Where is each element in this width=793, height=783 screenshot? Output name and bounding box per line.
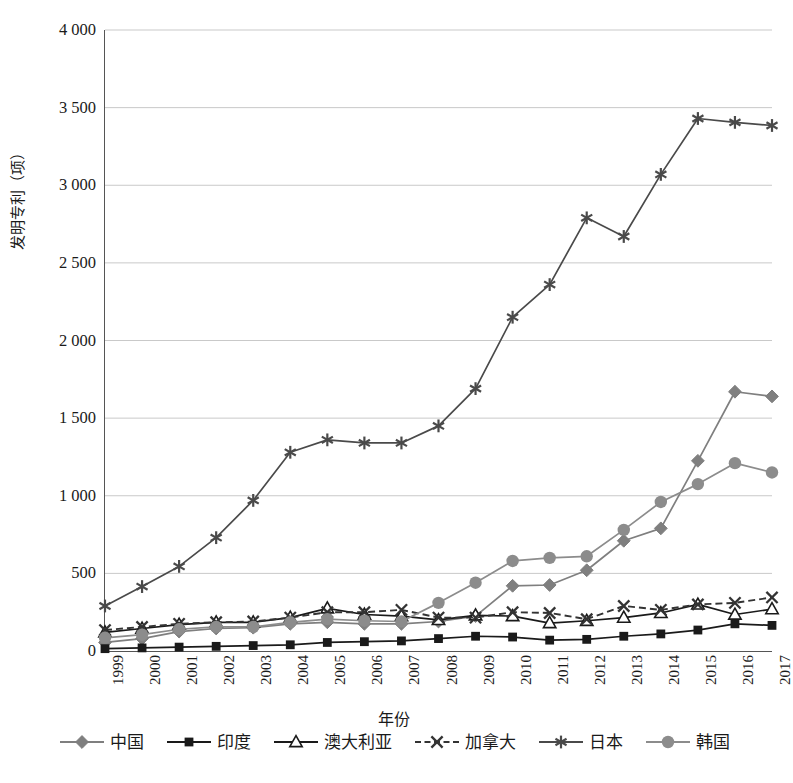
x-tick-label: 2011 (556, 655, 571, 684)
data-point-circle-marker (432, 597, 444, 609)
x-tick-label: 2010 (519, 655, 534, 685)
data-point-circle-marker (618, 524, 630, 536)
data-point-circle-marker (766, 466, 778, 478)
x-tick-label: 2005 (333, 655, 348, 685)
x-tick-label: 1999 (111, 655, 126, 685)
data-point-asterisk-marker (618, 230, 629, 243)
data-point-square-marker (619, 632, 628, 641)
series-4 (99, 112, 777, 612)
y-tick-label: 4 000 (22, 22, 96, 39)
x-tick-label: 2014 (667, 655, 682, 685)
x-tick-label: 2001 (185, 655, 200, 685)
y-tick-label: 500 (22, 565, 96, 582)
x-tick-label: 2016 (741, 655, 756, 685)
data-point-triangle-open-marker (289, 736, 301, 747)
legend: 中国印度澳大利亚加拿大日本韩国 (0, 733, 788, 751)
data-point-circle-marker (395, 615, 407, 627)
data-point-square-marker (731, 619, 740, 628)
data-point-circle-marker (247, 621, 259, 633)
data-point-circle-marker (173, 623, 185, 635)
data-point-square-marker (360, 637, 369, 646)
y-tick-label: 2 000 (22, 332, 96, 349)
data-point-circle-marker (136, 628, 148, 640)
legend-key-square-icon (166, 733, 212, 751)
data-point-square-marker (249, 641, 258, 650)
data-point-diamond-marker (654, 522, 667, 535)
data-point-square-marker (101, 644, 110, 653)
data-point-square-marker (138, 643, 147, 652)
legend-item-澳大利亚[interactable]: 澳大利亚 (273, 733, 392, 751)
data-point-circle-marker (661, 736, 673, 748)
data-point-square-marker (508, 633, 517, 642)
legend-item-韩国[interactable]: 韩国 (645, 733, 730, 751)
legend-label: 印度 (217, 734, 251, 751)
x-tick-label: 2006 (370, 655, 385, 685)
data-point-square-marker (323, 638, 332, 647)
x-tick-label: 2004 (296, 655, 311, 685)
y-axis-tick-labels: 05001 0001 5002 0002 5003 0003 5004 000 (16, 30, 96, 651)
data-point-circle-marker (543, 552, 555, 564)
legend-item-加拿大[interactable]: 加拿大 (414, 733, 516, 751)
data-point-asterisk-marker (99, 600, 110, 613)
data-point-circle-marker (358, 615, 370, 627)
data-point-square-marker (286, 640, 295, 649)
legend-item-中国[interactable]: 中国 (59, 733, 144, 751)
x-tick-label: 2013 (630, 655, 645, 685)
legend-item-印度[interactable]: 印度 (166, 733, 251, 751)
data-point-diamond-marker (766, 390, 779, 403)
data-point-asterisk-marker (174, 560, 185, 573)
data-point-circle-marker (99, 632, 111, 644)
x-tick-label: 2008 (445, 655, 460, 685)
data-point-diamond-marker (729, 385, 742, 398)
x-tick-label: 2015 (704, 655, 719, 685)
data-point-square-marker (175, 643, 184, 652)
plot-area (104, 30, 772, 652)
data-point-circle-marker (506, 555, 518, 567)
data-point-square-marker (582, 635, 591, 644)
data-point-square-marker (656, 630, 665, 639)
y-tick-label: 3 000 (22, 177, 96, 194)
data-point-square-marker (184, 738, 193, 747)
data-point-triangle-open-marker (766, 603, 778, 614)
legend-key-asterisk-icon (538, 733, 584, 751)
data-point-circle-marker (469, 576, 481, 588)
legend-label: 韩国 (696, 734, 730, 751)
x-axis-title: 年份 (0, 706, 788, 730)
x-tick-label: 2007 (407, 655, 422, 685)
data-point-circle-marker (729, 457, 741, 469)
x-tick-label: 2009 (482, 655, 497, 685)
data-point-circle-marker (321, 613, 333, 625)
data-point-circle-marker (284, 616, 296, 628)
x-tick-label: 2012 (593, 655, 608, 685)
legend-key-x-icon (414, 733, 460, 751)
y-tick-label: 0 (22, 643, 96, 660)
data-point-square-marker (545, 636, 554, 645)
data-point-square-marker (397, 637, 406, 646)
series-line (105, 463, 772, 638)
x-tick-label: 2017 (778, 655, 793, 685)
data-point-diamond-marker (75, 736, 88, 749)
legend-label: 加拿大 (465, 734, 516, 751)
legend-label: 日本 (589, 734, 623, 751)
legend-item-日本[interactable]: 日本 (538, 733, 623, 751)
legend-key-triangle-open-icon (273, 733, 319, 751)
x-tick-label: 2002 (222, 655, 237, 685)
legend-key-diamond-icon (59, 733, 105, 751)
data-point-asterisk-marker (137, 580, 148, 593)
y-tick-label: 3 500 (22, 99, 96, 116)
data-point-square-marker (434, 634, 443, 643)
y-tick-label: 1 000 (22, 488, 96, 505)
series-line (105, 118, 772, 605)
x-axis-tick-labels: 1999200020012002200320042005200620072008… (104, 655, 771, 705)
data-point-square-marker (768, 621, 777, 630)
x-tick-label: 2003 (259, 655, 274, 685)
data-point-asterisk-marker (581, 211, 592, 224)
y-tick-label: 2 500 (22, 255, 96, 272)
plot-svg (105, 30, 772, 651)
data-point-square-marker (693, 626, 702, 635)
data-point-diamond-marker (691, 454, 704, 467)
data-point-circle-marker (581, 550, 593, 562)
data-point-circle-marker (210, 621, 222, 633)
data-point-x-marker (431, 736, 442, 747)
data-point-diamond-marker (543, 579, 556, 592)
